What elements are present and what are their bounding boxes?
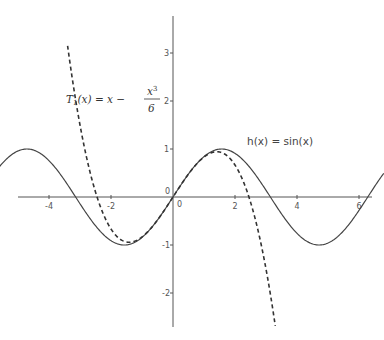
origin-label-y: 0 bbox=[165, 187, 170, 196]
taylor-label-mid: (x) = x − bbox=[77, 93, 125, 105]
y-tick-label: 3 bbox=[164, 49, 169, 58]
y-tick-label: 1 bbox=[164, 145, 169, 154]
x-tick-label: -4 bbox=[45, 202, 53, 211]
y-ticks: -2-1123 bbox=[162, 49, 173, 298]
y-tick-label: -2 bbox=[162, 289, 170, 298]
y-tick-label: -1 bbox=[162, 241, 170, 250]
x-tick-label: 4 bbox=[295, 202, 300, 211]
x-tick-label: -2 bbox=[107, 202, 115, 211]
taylor-frac-exponent: 3 bbox=[153, 85, 157, 93]
y-tick-label: 2 bbox=[164, 97, 169, 106]
sine-annotation: h(x) = sin(x) bbox=[247, 135, 313, 147]
function-plot: -4-2246 -2-1123 0 0 T1(x) = x − x3 6 h(x… bbox=[0, 0, 384, 340]
taylor-frac-denominator: 6 bbox=[148, 102, 155, 114]
taylor-polynomial-curve bbox=[68, 46, 276, 326]
x-tick-label: 2 bbox=[233, 202, 238, 211]
origin-label-x: 0 bbox=[177, 200, 182, 209]
svg-text:x3: x3 bbox=[147, 85, 157, 97]
taylor-annotation: T1(x) = x − x3 6 bbox=[66, 85, 160, 114]
